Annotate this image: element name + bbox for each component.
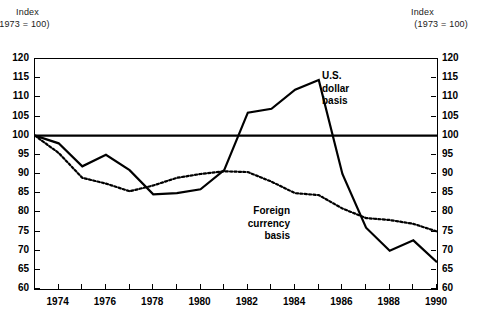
y-tick-mark-right [431, 269, 436, 270]
line-chart-canvas [35, 59, 437, 289]
y-tick-mark-left [35, 288, 40, 289]
y-tick-mark-right [431, 173, 436, 174]
y-tick-mark-right [431, 96, 436, 97]
y-tick-mark-left [35, 116, 40, 117]
right-axis-note-line1: Index [411, 6, 434, 18]
x-axis-tick-label: 1980 [180, 297, 220, 307]
x-tick-mark [341, 284, 342, 289]
x-tick-mark [105, 284, 106, 289]
y-axis-tick-label-left: 65 [3, 264, 29, 274]
y-axis-tick-label-right: 80 [442, 206, 468, 216]
x-tick-mark [318, 284, 319, 289]
y-axis-tick-label-left: 70 [3, 245, 29, 255]
x-tick-mark [270, 284, 271, 289]
y-axis-tick-label-right: 85 [442, 187, 468, 197]
y-tick-mark-right [431, 77, 436, 78]
annotation-us-dollar-basis: U.S. dollar basis [322, 70, 349, 108]
y-tick-mark-left [35, 192, 40, 193]
x-axis-tick-label: 1984 [274, 297, 314, 307]
x-axis-tick-label: 1978 [132, 297, 172, 307]
x-axis-tick-label: 1976 [85, 297, 125, 307]
y-axis-tick-label-left: 95 [3, 149, 29, 159]
x-tick-mark [81, 284, 82, 289]
y-tick-mark-right [431, 192, 436, 193]
y-axis-tick-label-right: 110 [442, 91, 468, 101]
y-axis-tick-label-left: 120 [3, 53, 29, 63]
x-tick-mark [152, 284, 153, 289]
x-tick-mark [389, 284, 390, 289]
annotation-foreign-line1: Foreign [253, 205, 290, 216]
left-axis-note-line2: (1973 = 100) [0, 18, 50, 30]
y-axis-tick-label-left: 90 [3, 168, 29, 178]
x-axis-tick-label: 1986 [321, 297, 361, 307]
y-axis-tick-label-left: 85 [3, 187, 29, 197]
y-axis-tick-label-right: 115 [442, 72, 468, 82]
y-axis-tick-label-right: 65 [442, 264, 468, 274]
annotation-usd-line3: basis [322, 95, 348, 106]
y-tick-mark-right [431, 211, 436, 212]
x-axis-tick-label: 1988 [369, 297, 409, 307]
y-axis-tick-label-right: 105 [442, 111, 468, 121]
x-tick-mark [436, 284, 437, 289]
chart-plot-area [34, 58, 438, 290]
y-tick-mark-left [35, 135, 40, 136]
y-tick-mark-left [35, 77, 40, 78]
y-axis-tick-label-left: 115 [3, 72, 29, 82]
x-tick-mark [223, 284, 224, 289]
y-axis-tick-label-left: 105 [3, 111, 29, 121]
y-tick-mark-left [35, 58, 40, 59]
y-tick-mark-left [35, 269, 40, 270]
x-tick-mark [365, 284, 366, 289]
y-axis-tick-label-right: 95 [442, 149, 468, 159]
x-tick-mark [294, 284, 295, 289]
annotation-usd-line2: dollar [322, 83, 349, 94]
y-tick-mark-right [431, 250, 436, 251]
right-axis-note-line2: (1973 = 100) [411, 18, 468, 30]
left-axis-index-note: Index (1973 = 100) [0, 6, 50, 30]
x-tick-mark [200, 284, 201, 289]
y-tick-mark-right [431, 135, 436, 136]
x-axis-tick-label: 1982 [227, 297, 267, 307]
y-tick-mark-left [35, 231, 40, 232]
left-axis-note-line1: Index [16, 6, 50, 18]
y-axis-tick-label-left: 100 [3, 130, 29, 140]
x-axis-tick-label: 1974 [38, 297, 78, 307]
y-tick-mark-left [35, 173, 40, 174]
x-tick-mark [129, 284, 130, 289]
annotation-usd-line1: U.S. [322, 70, 341, 81]
y-axis-tick-label-left: 80 [3, 206, 29, 216]
y-tick-mark-left [35, 96, 40, 97]
y-axis-tick-label-left: 110 [3, 91, 29, 101]
y-axis-tick-label-right: 120 [442, 53, 468, 63]
annotation-foreign-line2: currency [248, 218, 290, 229]
x-tick-mark [247, 284, 248, 289]
x-tick-mark [34, 284, 35, 289]
y-axis-tick-label-right: 90 [442, 168, 468, 178]
x-axis-tick-label: 1990 [416, 297, 456, 307]
y-tick-mark-right [431, 231, 436, 232]
y-axis-tick-label-left: 75 [3, 226, 29, 236]
y-tick-mark-right [431, 116, 436, 117]
y-axis-tick-label-left: 60 [3, 283, 29, 293]
y-tick-mark-left [35, 154, 40, 155]
annotation-foreign-currency-basis: Foreign currency basis [196, 205, 290, 243]
y-tick-mark-right [431, 154, 436, 155]
x-tick-mark [58, 284, 59, 289]
y-tick-mark-left [35, 250, 40, 251]
y-tick-mark-right [431, 58, 436, 59]
y-axis-tick-label-right: 60 [442, 283, 468, 293]
x-tick-mark [176, 284, 177, 289]
y-tick-mark-left [35, 211, 40, 212]
y-axis-tick-label-right: 75 [442, 226, 468, 236]
y-axis-tick-label-right: 70 [442, 245, 468, 255]
x-tick-mark [412, 284, 413, 289]
annotation-foreign-line3: basis [264, 230, 290, 241]
y-axis-tick-label-right: 100 [442, 130, 468, 140]
right-axis-index-note: Index (1973 = 100) [411, 6, 468, 30]
